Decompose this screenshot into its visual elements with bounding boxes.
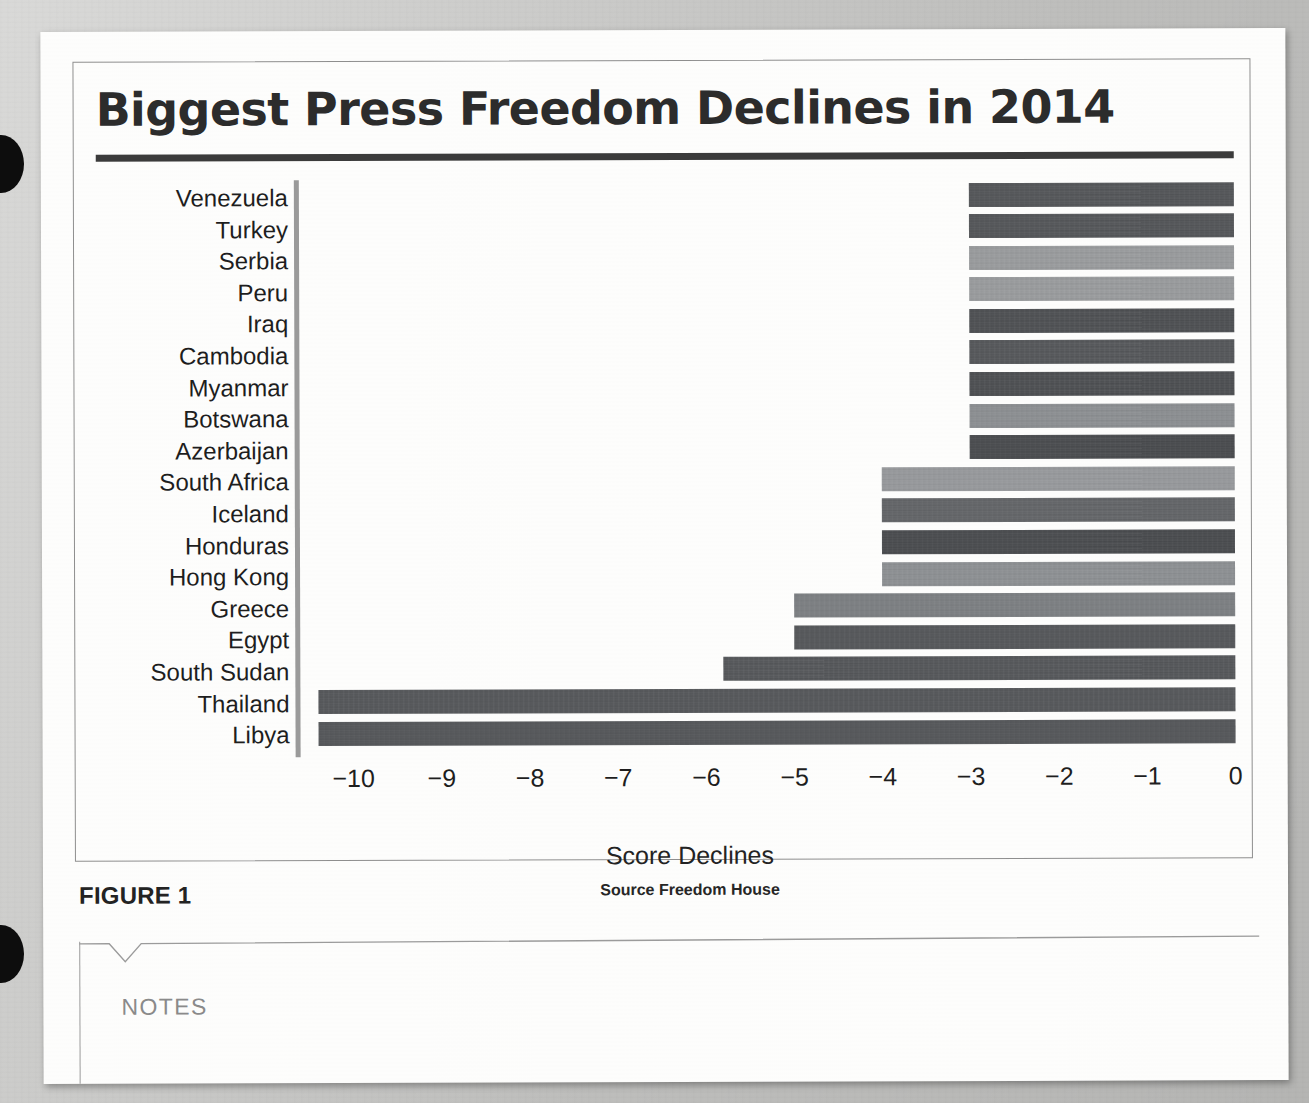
- bar: [969, 182, 1234, 207]
- notes-label: NOTES: [121, 993, 207, 1020]
- figure-frame: Biggest Press Freedom Declines in 2014 V…: [72, 58, 1253, 862]
- y-axis-tick-label: Hong Kong: [169, 563, 289, 591]
- bar: [318, 687, 1235, 714]
- y-axis-tick-label: Peru: [237, 279, 288, 307]
- bar-row: Iraq: [299, 306, 1234, 341]
- bar: [882, 466, 1235, 491]
- y-axis-tick-label: Cambodia: [179, 342, 288, 370]
- y-axis-tick-label: Iraq: [247, 311, 288, 339]
- x-axis-label: Score Declines: [120, 839, 1260, 872]
- bar: [970, 308, 1235, 333]
- bar-scan-texture: [969, 245, 1234, 270]
- bar-row: Serbia: [299, 242, 1234, 277]
- bar: [882, 561, 1235, 586]
- bar-scan-texture: [970, 340, 1235, 365]
- bar: [882, 529, 1235, 554]
- y-axis-tick-label: Venezuela: [176, 184, 288, 212]
- bar-row: Iceland: [300, 495, 1235, 530]
- x-axis-tick-label: −5: [780, 763, 809, 792]
- y-axis-tick-label: South Africa: [159, 469, 289, 497]
- bar-scan-texture: [724, 656, 1236, 682]
- y-axis-tick-label: Thailand: [197, 690, 289, 718]
- bar-scan-texture: [970, 371, 1235, 396]
- notes-block: NOTES: [79, 936, 1259, 1086]
- chart-title: Biggest Press Freedom Declines in 2014: [96, 79, 1236, 137]
- y-axis-tick-label: Azerbaijan: [175, 437, 288, 465]
- bar: [794, 624, 1235, 649]
- x-axis-tick-label: −3: [957, 762, 986, 791]
- y-axis-tick-label: Greece: [210, 595, 289, 623]
- bar: [318, 719, 1235, 746]
- bar: [970, 403, 1235, 428]
- bar-row: Thailand: [300, 685, 1235, 720]
- bar-scan-texture: [794, 624, 1235, 649]
- y-axis-tick-label: Libya: [232, 721, 289, 749]
- bar: [970, 371, 1235, 396]
- bar-row: Venezuela: [299, 179, 1234, 214]
- bar: [882, 498, 1235, 523]
- x-axis-ticks: −10−9−8−7−6−5−4−3−2−10: [301, 761, 1236, 804]
- plot-area: VenezuelaTurkeySerbiaPeruIraqCambodiaMya…: [96, 171, 1238, 795]
- x-axis-tick-label: −8: [516, 763, 545, 792]
- bar-row: Botswana: [300, 400, 1235, 435]
- title-underline-rule: [96, 151, 1234, 162]
- bar-series: VenezuelaTurkeySerbiaPeruIraqCambodiaMya…: [299, 179, 1236, 752]
- bar: [969, 245, 1234, 270]
- bar: [969, 213, 1234, 238]
- x-axis-tick-label: −7: [604, 763, 633, 792]
- y-axis-tick-label: Honduras: [185, 532, 289, 560]
- y-axis-tick-label: Serbia: [219, 247, 288, 275]
- bar-scan-texture: [969, 182, 1234, 207]
- bar-scan-texture: [882, 529, 1235, 554]
- y-axis-tick-label: Turkey: [215, 216, 288, 244]
- source-note: Source Freedom House: [120, 879, 1260, 901]
- bar-row: Myanmar: [299, 369, 1234, 404]
- bar: [794, 592, 1235, 617]
- bar: [724, 656, 1236, 682]
- y-axis-tick-label: Iceland: [211, 500, 288, 528]
- x-axis-tick-label: −4: [869, 762, 898, 791]
- x-axis-tick-label: −2: [1045, 762, 1074, 791]
- figure-caption: FIGURE 1: [79, 881, 191, 909]
- bar-row: Cambodia: [299, 337, 1234, 372]
- bar-scan-texture: [970, 276, 1235, 301]
- bar-scan-texture: [970, 403, 1235, 428]
- paper-sheet: Biggest Press Freedom Declines in 2014 V…: [40, 28, 1288, 1084]
- bar-scan-texture: [970, 308, 1235, 333]
- y-axis-tick-label: Myanmar: [188, 374, 288, 402]
- bar-row: Hong Kong: [300, 558, 1235, 593]
- bar-row: Libya: [301, 716, 1236, 751]
- bar-row: Greece: [300, 590, 1235, 625]
- notes-top-border-notch: [79, 936, 1259, 966]
- bar-row: Peru: [299, 274, 1234, 309]
- bar-row: Egypt: [300, 622, 1235, 657]
- y-axis-tick-label: Botswana: [183, 405, 288, 433]
- bar-scan-texture: [794, 592, 1235, 617]
- x-axis-tick-label: −6: [692, 763, 721, 792]
- bar-scan-texture: [318, 719, 1235, 746]
- bar-scan-texture: [318, 687, 1235, 714]
- x-axis-tick-label: −9: [428, 764, 457, 793]
- bar-row: Turkey: [299, 211, 1234, 246]
- bar-row: South Sudan: [300, 653, 1235, 688]
- page-top-text-fragment: [0, 0, 1309, 20]
- bar-row: South Africa: [300, 464, 1235, 499]
- bar: [970, 340, 1235, 365]
- bar: [970, 434, 1235, 459]
- bar: [970, 276, 1235, 301]
- x-axis-tick-label: −1: [1133, 761, 1162, 790]
- bar-scan-texture: [970, 434, 1235, 459]
- bar-scan-texture: [882, 561, 1235, 586]
- bar-scan-texture: [969, 213, 1234, 238]
- x-axis-tick-label: 0: [1229, 761, 1243, 790]
- x-axis-tick-label: −10: [332, 764, 375, 793]
- bar-row: Honduras: [300, 527, 1235, 562]
- bar-scan-texture: [882, 466, 1235, 491]
- bar-row: Azerbaijan: [300, 432, 1235, 467]
- y-axis-tick-label: Egypt: [228, 626, 289, 654]
- y-axis-tick-label: South Sudan: [151, 658, 290, 686]
- bar-scan-texture: [882, 498, 1235, 523]
